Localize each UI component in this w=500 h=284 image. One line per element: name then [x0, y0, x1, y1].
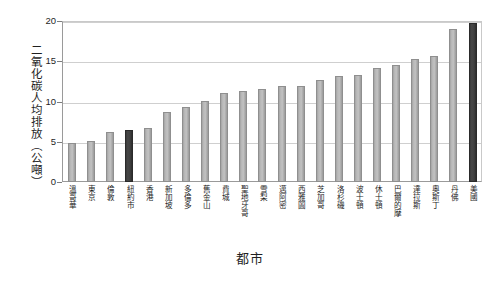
x-label-slot: 紐約市	[119, 185, 138, 241]
bar-紐約市[interactable]	[125, 130, 133, 182]
y-tick-15	[57, 61, 62, 62]
bar-費城[interactable]	[220, 93, 228, 182]
x-label-slot: 巴爾的摩	[387, 185, 406, 241]
x-tick-label-奧斯丁: 奧斯丁	[430, 185, 438, 209]
x-tick-label-東京: 東京	[86, 185, 94, 201]
y-tick-label-10: 10	[36, 96, 56, 107]
x-label-slot: 雪梨	[253, 185, 272, 241]
x-tick-label-香港: 香港	[144, 185, 152, 201]
bar-波士頓[interactable]	[354, 75, 362, 182]
x-label-slot: 費城	[215, 185, 234, 241]
y-tick-5	[57, 142, 62, 143]
y-tick-label-15: 15	[36, 55, 56, 66]
bar-芝加哥[interactable]	[316, 80, 324, 182]
y-tick-label-0: 0	[36, 176, 56, 187]
bar-西雅圖[interactable]	[297, 86, 305, 182]
x-tick-label-多倫多: 多倫多	[182, 185, 190, 209]
x-label-slot: 芝加哥	[310, 185, 329, 241]
bar-溫哥華[interactable]	[68, 143, 76, 182]
x-tick-label-新加坡: 新加坡	[163, 185, 171, 209]
x-label-slot: 聖地牙哥	[234, 185, 253, 241]
x-tick-label-芝加哥: 芝加哥	[316, 185, 324, 209]
x-label-slot: 倫敦	[100, 185, 119, 241]
x-tick-label-倫敦: 倫敦	[106, 185, 114, 201]
x-label-slot: 丹佛	[444, 185, 463, 241]
bar-舊金山[interactable]	[201, 101, 209, 182]
x-label-slot: 香港	[138, 185, 157, 241]
bar-休士頓[interactable]	[373, 68, 381, 182]
x-label-slot: 多倫多	[177, 185, 196, 241]
gridline-20	[63, 22, 481, 23]
x-label-slot: 達拉斯	[406, 185, 425, 241]
x-tick-label-溫哥華: 溫哥華	[67, 185, 75, 209]
x-label-slot: 舊金山	[196, 185, 215, 241]
bar-多倫多[interactable]	[182, 107, 190, 182]
x-tick-label-費城: 費城	[220, 185, 228, 201]
bar-東京[interactable]	[87, 141, 95, 182]
x-label-slot: 新加坡	[157, 185, 176, 241]
bar-雪梨[interactable]	[258, 89, 266, 182]
x-tick-label-洛杉磯: 洛杉磯	[335, 185, 343, 209]
x-axis-tick-labels: 溫哥華東京倫敦紐約市香港新加坡多倫多舊金山費城聖地牙哥雪梨邁阿密西雅圖芝加哥洛杉…	[62, 185, 482, 241]
x-label-slot: 美國	[463, 185, 482, 241]
bar-達拉斯[interactable]	[411, 59, 419, 182]
bar-聖地牙哥[interactable]	[239, 91, 247, 182]
x-label-slot: 邁阿密	[272, 185, 291, 241]
x-label-slot: 東京	[81, 185, 100, 241]
bar-巴爾的摩[interactable]	[392, 65, 400, 182]
x-tick-label-美國: 美國	[468, 185, 476, 201]
x-label-slot: 奧斯丁	[425, 185, 444, 241]
y-tick-label-5: 5	[36, 136, 56, 147]
x-tick-label-邁阿密: 邁阿密	[277, 185, 285, 209]
bar-新加坡[interactable]	[163, 112, 171, 182]
bar-香港[interactable]	[144, 128, 152, 182]
x-axis-title: 都市	[0, 248, 500, 267]
bar-美國[interactable]	[469, 23, 477, 182]
y-tick-20	[57, 21, 62, 22]
x-label-slot: 西雅圖	[291, 185, 310, 241]
x-tick-label-丹佛: 丹佛	[449, 185, 457, 201]
x-tick-label-波士頓: 波士頓	[354, 185, 362, 209]
x-label-slot: 溫哥華	[62, 185, 81, 241]
bar-洛杉磯[interactable]	[335, 76, 343, 182]
y-tick-label-20: 20	[36, 15, 56, 26]
x-label-slot: 休士頓	[368, 185, 387, 241]
y-tick-0	[57, 182, 62, 183]
x-tick-label-西雅圖: 西雅圖	[296, 185, 304, 209]
x-tick-label-休士頓: 休士頓	[373, 185, 381, 209]
x-tick-label-聖地牙哥: 聖地牙哥	[239, 185, 247, 217]
bar-邁阿密[interactable]	[278, 86, 286, 182]
x-tick-label-雪梨: 雪梨	[258, 185, 266, 201]
x-tick-label-舊金山: 舊金山	[201, 185, 209, 209]
bar-倫敦[interactable]	[106, 132, 114, 182]
bar-奧斯丁[interactable]	[430, 56, 438, 182]
chart-figure: 二氧化碳人均排放（公噸） 溫哥華東京倫敦紐約市香港新加坡多倫多舊金山費城聖地牙哥…	[0, 0, 500, 284]
x-label-slot: 波士頓	[348, 185, 367, 241]
x-label-slot: 洛杉磯	[329, 185, 348, 241]
y-tick-10	[57, 102, 62, 103]
bar-丹佛[interactable]	[449, 29, 457, 182]
x-tick-label-達拉斯: 達拉斯	[411, 185, 419, 209]
x-tick-label-紐約市: 紐約市	[125, 185, 133, 209]
x-tick-label-巴爾的摩: 巴爾的摩	[392, 185, 400, 217]
